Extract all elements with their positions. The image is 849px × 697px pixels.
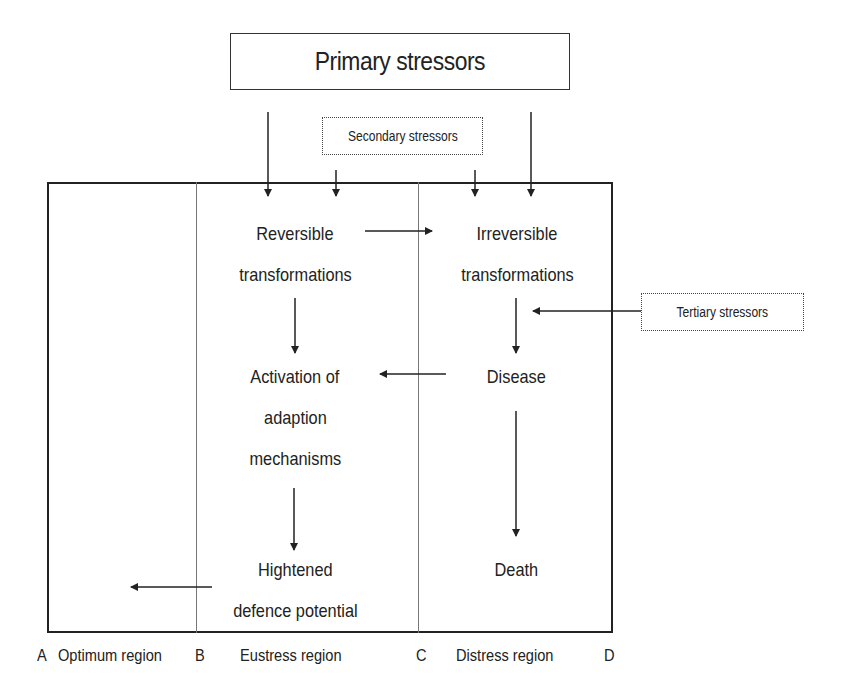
arrows-layer [0, 0, 849, 697]
region-label-distress: Distress region [456, 646, 569, 666]
region-marker-a: A [37, 646, 48, 666]
region-marker-d: D [604, 646, 616, 666]
region-label-optimum: Optimum region [58, 646, 179, 666]
region-marker-b: B [195, 646, 206, 666]
region-marker-c: C [416, 646, 428, 666]
region-label-eustress: Eustress region [240, 646, 358, 666]
